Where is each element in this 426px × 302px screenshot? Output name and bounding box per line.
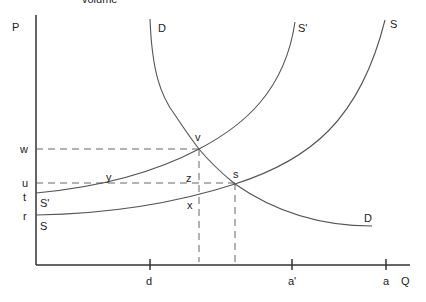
tick-label-a-prime: a'	[288, 275, 296, 287]
tick-label-d: d	[146, 275, 152, 287]
point-x: x	[187, 199, 193, 211]
tick-label-a: a	[383, 275, 390, 287]
price-label-r: r	[23, 210, 27, 222]
point-y: y	[106, 171, 112, 183]
supply-prime-label-top: S'	[298, 22, 307, 34]
point-z: z	[186, 172, 192, 184]
y-axis-label: P	[12, 21, 19, 33]
demand-label-bottom: D	[364, 212, 372, 224]
demand-curve	[150, 19, 372, 226]
price-label-u: u	[22, 177, 28, 189]
point-s: s	[233, 168, 239, 180]
point-v: v	[195, 131, 201, 143]
supply-label-left: S	[40, 220, 47, 232]
supply-prime-curve	[36, 22, 295, 193]
price-label-t: t	[23, 191, 26, 203]
demand-label-top: D	[158, 22, 166, 34]
x-axis-label: Q	[401, 275, 410, 287]
supply-prime-label-left: S'	[40, 197, 49, 209]
supply-demand-diagram: volume P Q d a' a w u t r D D S' S' S S …	[0, 0, 426, 302]
price-label-w: w	[19, 143, 28, 155]
title-partial: volume	[82, 0, 117, 5]
supply-label-top: S	[390, 18, 397, 30]
